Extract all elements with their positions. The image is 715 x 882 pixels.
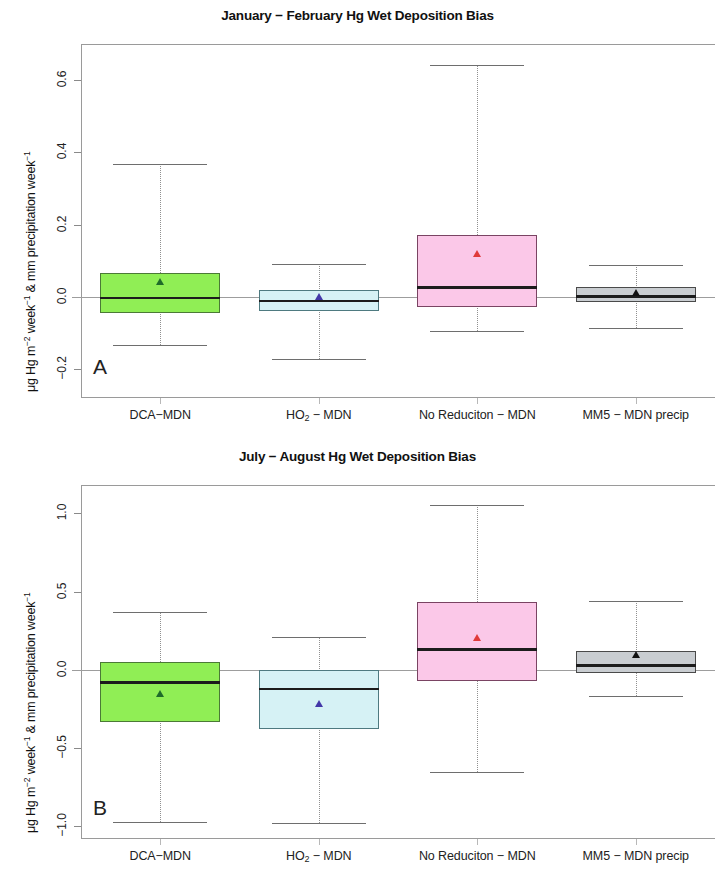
boxplot-box [417,602,537,680]
boxplot-lower-whisker-cap [113,345,207,346]
panel-july-august: July − August Hg Wet Deposition Bias μg … [0,441,715,882]
y-tick-label: 0.6 [55,59,69,99]
boxplot-upper-whisker-cap [589,265,683,266]
y-tick-label: −0.5 [55,727,69,767]
boxplot-mean-marker [315,293,323,300]
y-tick-mark [74,592,81,593]
boxplot-upper-whisker-cap [272,637,366,638]
boxplot-upper-whisker-cap [589,601,683,602]
panel-b-letter: B [93,796,107,820]
boxplot-median-line [259,300,379,303]
boxplot-upper-whisker-cap [430,505,524,506]
y-tick-mark [74,225,81,226]
panel-b-y-axis-title: μg Hg m−2 week−1 & mm precipitation week… [22,593,38,833]
y-tick-mark [74,152,81,153]
boxplot-mean-marker [156,690,164,697]
boxplot-mean-marker [473,634,481,641]
panel-a-letter: A [93,355,107,379]
boxplot-upper-whisker-cap [113,164,207,165]
x-tick-mark [160,398,161,404]
y-tick-label: 0.2 [55,204,69,244]
x-tick-label-3: MM5 − MDN precip [536,408,715,422]
y-tick-label: −1.0 [55,805,69,845]
boxplot-whisker-stem [160,164,161,345]
y-tick-label: 0.0 [55,276,69,316]
x-tick-mark [636,839,637,845]
boxplot-median-line [417,648,537,651]
y-tick-mark [74,826,81,827]
boxplot-median-line [576,664,696,667]
boxplot-upper-whisker-cap [113,612,207,613]
y-tick-label: 1.0 [55,492,69,532]
y-tick-mark [74,513,81,514]
boxplot-mean-marker [632,289,640,296]
x-tick-mark [319,398,320,404]
x-tick-mark [477,398,478,404]
boxplot-box [417,235,537,308]
boxplot-lower-whisker-cap [430,772,524,773]
y-tick-mark [74,80,81,81]
boxplot-upper-whisker-cap [430,65,524,66]
boxplot-lower-whisker-cap [272,359,366,360]
boxplot-mean-marker [473,250,481,257]
panel-a-title: January − February Hg Wet Deposition Bia… [0,8,715,23]
boxplot-mean-marker [315,700,323,707]
boxplot-median-line [417,286,537,289]
boxplot-whisker-stem [319,264,320,359]
x-tick-mark [636,398,637,404]
boxplot-lower-whisker-cap [113,822,207,823]
boxplot-upper-whisker-cap [272,264,366,265]
x-tick-mark [160,839,161,845]
y-tick-mark [74,748,81,749]
x-tick-label-3: MM5 − MDN precip [536,849,715,863]
boxplot-lower-whisker-cap [272,823,366,824]
boxplot-median-line [100,297,220,300]
boxplot-lower-whisker-cap [589,696,683,697]
y-tick-label: 0.4 [55,131,69,171]
y-tick-label: −0.2 [55,348,69,388]
panel-a-y-axis-title: μg Hg m−2 week−1 & mm precipitation week… [22,152,38,392]
y-tick-label: 0.5 [55,571,69,611]
y-tick-mark [74,369,81,370]
boxplot-lower-whisker-cap [430,331,524,332]
boxplot-whisker-stem [636,601,637,697]
boxplot-mean-marker [632,651,640,658]
x-tick-mark [319,839,320,845]
boxplot-median-line [259,688,379,691]
boxplot-whisker-stem [319,637,320,823]
y-tick-label: 0.0 [55,649,69,689]
boxplot-lower-whisker-cap [589,328,683,329]
panel-b-title: July − August Hg Wet Deposition Bias [0,449,715,464]
panel-january-february: January − February Hg Wet Deposition Bia… [0,0,715,441]
x-tick-mark [477,839,478,845]
boxplot-median-line [100,681,220,684]
boxplot-mean-marker [156,278,164,285]
